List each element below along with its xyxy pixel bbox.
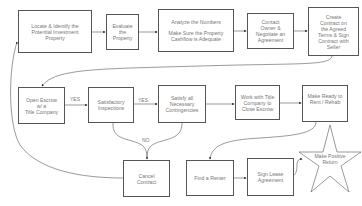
- arrow-ready-renter: [210, 122, 316, 159]
- node-evaluate: Evaluate the Property: [106, 14, 139, 50]
- node-open-escrow: Open Escrow w/ a Title Company: [18, 87, 65, 124]
- node-analyze: Analyze the Numbers Make Sure the Proper…: [158, 9, 234, 52]
- diagram-title: Process Flowchart: [70, 0, 180, 1]
- node-text: Seller: [327, 44, 340, 50]
- node-text: Property: [113, 35, 133, 41]
- brace-no-right: [147, 123, 182, 159]
- node-contingencies: Satisfy all Necessary Contingencies: [158, 85, 206, 123]
- node-text: Cashflow is Adequate: [171, 36, 221, 42]
- node-inspections: Satisfactory Inspections: [88, 87, 134, 123]
- node-text: Title Company: [25, 109, 58, 115]
- arrow-create-escrow: [42, 56, 332, 86]
- arrow-lease-return: [294, 159, 302, 175]
- edge-label-yes: YES: [70, 96, 80, 102]
- node-text: Find a Renter: [194, 175, 225, 181]
- node-text: Property: [45, 35, 65, 41]
- node-make-ready: Make Ready to Rent / Rehab: [302, 85, 348, 122]
- node-find-renter: Find a Renter: [186, 160, 234, 196]
- node-text: Inspections: [98, 105, 124, 111]
- node-text: Agreement: [258, 37, 283, 43]
- node-positive-return: Make Positive Return: [310, 153, 350, 165]
- node-cancel-contract: Cancel Contract: [123, 160, 170, 197]
- node-text: Close Escrow: [242, 106, 274, 112]
- edge-label-no: NO: [142, 137, 150, 143]
- node-text: Agreement: [258, 177, 283, 183]
- node-create-contract: Create Contract on the Agreed Terms & Si…: [308, 7, 359, 56]
- node-text: Rent / Rehab: [310, 99, 341, 105]
- node-text: Analyze the Numbers: [171, 19, 221, 25]
- node-close-escrow: Work with Title Company to Close Escrow: [235, 85, 280, 120]
- node-text: Return: [310, 159, 350, 165]
- node-sign-lease: Sign Lease Agreement: [247, 158, 294, 196]
- node-text: Contingencies: [166, 107, 199, 113]
- node-text: Contract: [137, 179, 157, 185]
- node-contact: Contact Owner & Negotiate an Agreement: [247, 13, 294, 49]
- edge-label-yes: YES: [138, 97, 148, 103]
- node-locate: Locate & Identify the Potential Investme…: [18, 10, 92, 53]
